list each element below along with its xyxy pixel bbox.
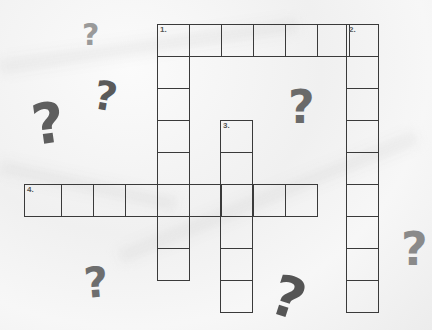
crossword-cell[interactable]: 2.: [346, 24, 379, 57]
crossword-cell[interactable]: [157, 184, 190, 217]
crossword-cell[interactable]: [220, 280, 253, 313]
crossword-cell[interactable]: [93, 184, 126, 217]
crossword-cell[interactable]: [346, 248, 379, 281]
crossword-cell[interactable]: [220, 152, 253, 185]
clue-number: 2.: [349, 25, 356, 34]
crossword-cell[interactable]: [346, 120, 379, 153]
clue-number: 1.: [160, 25, 167, 34]
crossword-cell[interactable]: [220, 184, 253, 217]
crossword-cell[interactable]: [253, 24, 286, 57]
crossword-cell[interactable]: [125, 184, 158, 217]
crossword-cell[interactable]: [346, 184, 379, 217]
crossword-cell[interactable]: 1.: [157, 24, 190, 57]
crossword-cell[interactable]: [61, 184, 94, 217]
crossword-cell[interactable]: [346, 280, 379, 313]
crossword-cell[interactable]: [253, 184, 286, 217]
crossword-cell[interactable]: [285, 24, 318, 57]
crossword-cell[interactable]: [157, 248, 190, 281]
question-mark-icon: ?: [82, 20, 99, 50]
crossword-cell[interactable]: [346, 56, 379, 89]
crossword-cell[interactable]: [189, 24, 222, 57]
crossword-cell[interactable]: [220, 216, 253, 249]
clue-number: 3.: [223, 121, 230, 130]
question-mark-icon: ?: [401, 226, 428, 272]
crossword-cell[interactable]: [157, 152, 190, 185]
crossword-cell[interactable]: [189, 184, 222, 217]
crossword-cell[interactable]: [157, 216, 190, 249]
question-mark-icon: ?: [82, 261, 110, 305]
crossword-cell[interactable]: [157, 120, 190, 153]
crossword-cell[interactable]: [157, 88, 190, 121]
crossword-cell[interactable]: 3.: [220, 120, 253, 153]
crossword-cell[interactable]: [346, 216, 379, 249]
crossword-cell[interactable]: 4.: [24, 184, 62, 217]
question-mark-icon: ?: [288, 84, 315, 130]
crossword-cell[interactable]: [285, 184, 318, 217]
clue-number: 4.: [27, 185, 34, 194]
crossword-cell[interactable]: [221, 24, 254, 57]
crossword-cell[interactable]: [220, 248, 253, 281]
crossword-cell[interactable]: [346, 152, 379, 185]
crossword-cell[interactable]: [157, 56, 190, 89]
crossword-cell[interactable]: [346, 88, 379, 121]
